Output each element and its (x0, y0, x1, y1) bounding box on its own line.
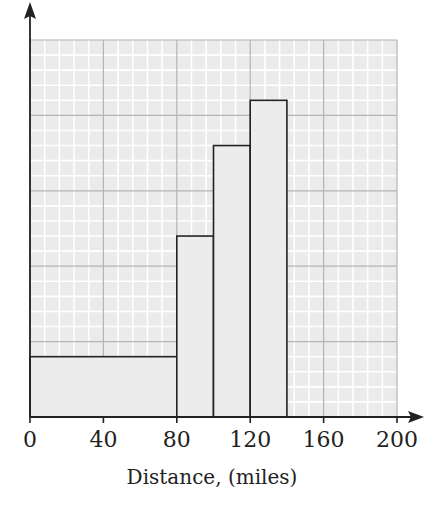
x-tick-label: 0 (23, 427, 37, 452)
histogram-bar (30, 357, 177, 417)
x-tick-label: 160 (303, 427, 345, 452)
histogram-chart: 04080120160200 Distance, (miles) (0, 0, 433, 509)
histogram-bar (214, 146, 251, 417)
x-axis-title: Distance, (miles) (127, 465, 298, 489)
x-tick-label: 120 (229, 427, 271, 452)
x-tick-label: 40 (89, 427, 117, 452)
x-axis-ticks: 04080120160200 (23, 417, 418, 452)
x-tick-label: 200 (376, 427, 418, 452)
histogram-bar (177, 236, 214, 417)
histogram-bar (250, 100, 287, 417)
x-tick-label: 80 (163, 427, 191, 452)
